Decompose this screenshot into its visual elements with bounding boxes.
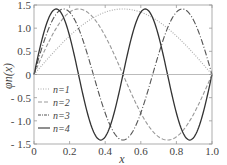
x-tick-label: 0.2 xyxy=(63,145,77,157)
y-axis-label: φn(x) xyxy=(1,63,15,89)
y-tick-label: - 1.5 xyxy=(11,138,32,150)
x-tick-label: 1.0 xyxy=(205,145,219,157)
legend-label: n=3 xyxy=(53,110,70,121)
y-tick-label: - 1.0 xyxy=(11,115,32,127)
legend-label: n=4 xyxy=(53,123,70,134)
x-axis-label: x xyxy=(118,152,125,165)
x-tick-label: 0.8 xyxy=(170,145,184,157)
x-tick-label: 0.4 xyxy=(98,145,112,157)
legend-label: n=2 xyxy=(53,97,70,108)
series-line-n1 xyxy=(34,9,212,75)
y-tick-label: 0.5 xyxy=(17,45,31,57)
x-tick-label: 0.6 xyxy=(134,145,148,157)
legend-label: n=1 xyxy=(53,84,70,95)
chart: 00.20.40.60.81.0 1.51.00.50- 0.5- 1.0- 1… xyxy=(0,0,227,165)
x-tick-label: 0 xyxy=(31,145,37,157)
legend: n=1n=2n=3n=4 xyxy=(38,84,70,134)
y-tick-label: - 0.5 xyxy=(11,92,32,104)
y-tick-label: 1.5 xyxy=(17,0,31,11)
y-tick-label: 0 xyxy=(26,69,32,81)
y-tick-label: 1.0 xyxy=(17,22,31,34)
